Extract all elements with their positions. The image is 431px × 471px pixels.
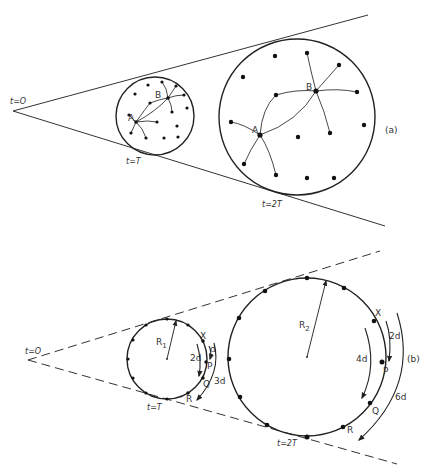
distance-d-small: d: [210, 344, 216, 354]
point-p-small: P: [207, 361, 213, 371]
distance-4d-large: 4d: [356, 354, 367, 364]
apex-label-b: t=O: [25, 347, 41, 356]
distance-2d-large: 2d: [389, 331, 400, 341]
point-q-small: Q: [203, 379, 210, 389]
small-ring: R1 X P Q R 2d d: [126, 317, 225, 404]
small-sphere-time-label: t=T: [126, 157, 142, 166]
radius-r1-arrow: [167, 321, 176, 359]
point-b-label-small: B: [155, 90, 161, 100]
radius-r2-arrow: [307, 281, 326, 357]
radius-r1-label: R1: [156, 337, 167, 350]
point-r-large: R: [347, 425, 353, 435]
panel-a-label: (a): [385, 125, 398, 135]
panel-b: t=O R1 X: [25, 251, 420, 464]
point-p-large: P: [383, 366, 389, 376]
point-q-large: Q: [372, 406, 379, 416]
large-sphere-time-label: t=2T: [262, 200, 283, 209]
point-a-label-large: A: [252, 125, 259, 135]
panel-b-label: (b): [407, 354, 420, 364]
large-ring: R2 X P Q R 2d 4d: [227, 276, 407, 440]
large-ring-time-label: t=2T: [277, 439, 298, 448]
cone-upper-line: [13, 15, 368, 111]
galaxy-dots-large: [229, 51, 366, 180]
point-b-label-large: B: [306, 82, 312, 92]
point-x-large: X: [375, 308, 381, 318]
apex-label: t=O: [10, 97, 26, 106]
radius-r2-label: R2: [299, 320, 310, 333]
point-r-small: R: [186, 394, 192, 404]
distance-2d-small: 2d: [190, 353, 201, 363]
small-sphere: A B: [116, 77, 194, 155]
expanding-universe-diagram: t=O: [0, 0, 431, 471]
large-sphere: A B: [219, 39, 375, 195]
point-x-small: X: [200, 331, 206, 341]
distance-6d-large: 6d: [395, 392, 406, 402]
point-a-label-small: A: [128, 113, 135, 123]
distance-3d-small: 3d: [214, 376, 225, 386]
panel-a: t=O: [10, 15, 398, 226]
small-ring-time-label: t=T: [147, 403, 163, 412]
